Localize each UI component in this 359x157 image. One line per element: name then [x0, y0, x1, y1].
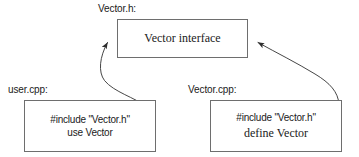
node-impl-line-1: #include "Vector.h": [236, 111, 315, 125]
node-label-header: Vector.h:: [98, 3, 136, 14]
node-header-line-1: Vector interface: [144, 30, 220, 46]
node-header-box[interactable]: Vector interface: [117, 19, 248, 58]
node-label-user: user.cpp:: [8, 84, 48, 95]
node-user-line-2: use Vector: [67, 126, 112, 140]
node-label-impl: Vector.cpp:: [188, 84, 236, 95]
node-impl-line-2: define Vector: [244, 125, 308, 141]
node-user-box[interactable]: #include "Vector.h" use Vector: [24, 100, 156, 152]
diagram-canvas: Vector.h: Vector interface user.cpp: #in…: [0, 0, 359, 157]
node-user-line-1: #include "Vector.h": [50, 113, 129, 127]
node-impl-box[interactable]: #include "Vector.h" define Vector: [210, 100, 342, 152]
